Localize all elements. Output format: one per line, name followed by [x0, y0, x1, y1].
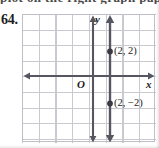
origin-label: O: [77, 78, 85, 90]
y-axis-label: y: [95, 14, 100, 25]
cut-off-header-text: plot on the right graph paper: [0, 0, 159, 4]
plot-point-2-neg2: [107, 101, 113, 107]
page-edge-shadow: [156, 0, 159, 148]
plotted-line-x-equals-2: [106, 15, 114, 143]
x-axis: [24, 73, 155, 80]
problem-number: 64.: [1, 12, 18, 28]
page-bottom-shadow: [0, 145, 159, 148]
coordinate-graph: O y x (2, 2) (2, −2): [22, 14, 156, 143]
y-axis: [90, 16, 97, 143]
point-label-2-2: (2, 2): [114, 45, 137, 56]
point-label-2-neg2: (2, −2): [114, 97, 143, 108]
x-axis-label: x: [146, 78, 152, 90]
axes-and-plot-layer: [22, 14, 156, 143]
textbook-figure: plot on the right graph paper 64.: [0, 0, 159, 148]
plot-point-2-2: [107, 49, 113, 55]
